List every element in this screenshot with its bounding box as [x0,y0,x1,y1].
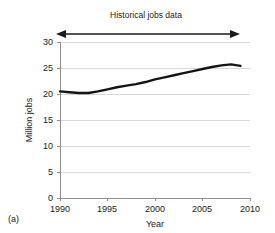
x-tick-label-2010: 2010 [240,204,260,214]
y-tick-label-10: 10 [43,141,53,151]
y-tick-label-30: 30 [43,37,53,47]
x-tick-label-2005: 2005 [192,204,212,214]
y-tick-label-0: 0 [48,193,53,203]
x-tick-label-2000: 2000 [145,204,165,214]
arrow-head-right-icon [230,30,240,38]
y-axis-title: Million jobs [24,97,34,142]
line-chart: Historical jobs data [0,0,275,233]
historical-range-arrow [56,30,240,38]
panel-label: (a) [8,214,19,224]
chart-title: Historical jobs data [110,10,182,20]
figure-panel: Historical jobs data [0,0,275,233]
y-tick-label-15: 15 [43,115,53,125]
arrow-head-left-icon [56,30,66,38]
x-axis-title: Year [146,219,164,229]
series-line-million-jobs [60,64,241,93]
y-tick-label-20: 20 [43,89,53,99]
y-tick-label-5: 5 [48,167,53,177]
x-tick-label-1990: 1990 [50,204,70,214]
x-tick-label-1995: 1995 [97,204,117,214]
y-tick-label-25: 25 [43,63,53,73]
